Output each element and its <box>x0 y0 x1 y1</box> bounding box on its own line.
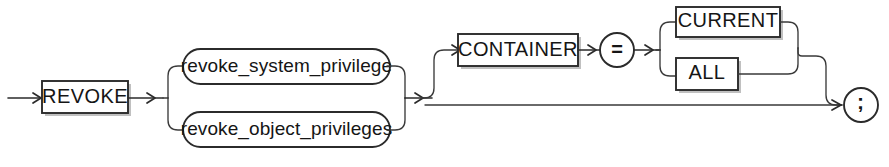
node-container: CONTAINER <box>458 34 581 69</box>
node-semicolon-terminator-label: ; <box>857 90 865 113</box>
rail-revoke-to-privilege <box>128 93 163 103</box>
node-revoke: REVOKE <box>42 81 131 116</box>
node-revoke-object-privileges-label: revoke_object_privileges <box>181 118 393 140</box>
branch-container-value-split <box>656 22 678 76</box>
node-equals-operator: = <box>600 33 634 67</box>
node-current: CURRENT <box>676 7 783 40</box>
node-current-label: CURRENT <box>678 9 779 31</box>
entry-arrow <box>8 93 41 103</box>
node-all: ALL <box>676 58 741 93</box>
node-revoke-label: REVOKE <box>42 85 128 107</box>
node-revoke-object-privileges: revoke_object_privileges <box>181 112 393 147</box>
node-revoke-system-privilege-label: revoke_system_privilege <box>181 55 392 77</box>
node-all-label: ALL <box>689 61 726 83</box>
rail-container-to-equals <box>578 45 601 55</box>
node-equals-operator-label: = <box>611 38 623 60</box>
revoke-railroad-diagram: REVOKE revoke_system_privilege revoke_ob… <box>0 0 889 167</box>
rail-container-clause-exit <box>798 48 842 105</box>
rail-container-clause-entry <box>421 45 462 98</box>
node-revoke-system-privilege: revoke_system_privilege <box>181 49 392 84</box>
node-container-label: CONTAINER <box>458 38 578 60</box>
node-semicolon-terminator: ; <box>844 88 878 122</box>
syntax-diagram-canvas: REVOKE revoke_system_privilege revoke_ob… <box>0 0 889 167</box>
